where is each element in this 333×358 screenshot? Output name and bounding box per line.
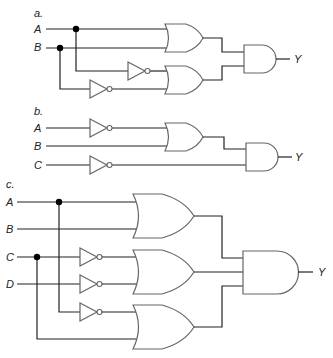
and-gate-icon [246, 143, 278, 171]
not-gate-icon [80, 303, 102, 321]
part-b-label: b. [34, 105, 43, 117]
wire-or1-out [194, 216, 243, 258]
or-gate-icon [165, 123, 203, 151]
wire-b-branch [60, 48, 90, 89]
input-d-label: D [6, 278, 14, 290]
wire-or2-out [203, 66, 244, 80]
junction-dot [34, 254, 40, 260]
input-c-label: C [34, 159, 42, 171]
output-y-label: Y [294, 53, 302, 65]
wire-or-out [203, 137, 246, 149]
not-gate-icon [128, 62, 150, 80]
circuit-c: c. A B C D [5, 178, 326, 349]
junction-dot [57, 45, 63, 51]
output-y-label: Y [295, 151, 303, 163]
not-gate-icon [80, 248, 102, 266]
or-gate-icon [165, 66, 203, 94]
wire-c-branch [37, 257, 137, 339]
part-c-label: c. [6, 178, 15, 190]
part-a-label: a. [34, 7, 43, 19]
input-a-label: A [33, 23, 41, 35]
or-gate-icon [165, 24, 203, 52]
input-a-label: A [5, 196, 13, 208]
junction-dot [56, 199, 62, 205]
and-gate-icon [244, 45, 276, 73]
input-b-label: B [6, 223, 13, 235]
or-gate-icon [133, 250, 194, 294]
input-a-label: A [33, 122, 41, 134]
input-c-label: C [6, 251, 14, 263]
wire-a-branch [76, 29, 128, 71]
not-gate-icon [90, 80, 112, 98]
circuit-diagrams: a. A B Y b. A [0, 0, 333, 358]
and-gate-icon [243, 251, 299, 294]
not-gate-icon [80, 275, 102, 293]
junction-dot [73, 26, 79, 32]
or-gate-icon [133, 305, 194, 349]
input-b-label: B [34, 140, 41, 152]
not-gate-icon [90, 156, 112, 174]
wire-or1-out [203, 38, 244, 52]
circuit-a: a. A B Y [33, 7, 302, 98]
output-y-label: Y [318, 266, 326, 278]
circuit-b: b. A B C Y [33, 105, 303, 174]
or-gate-icon [133, 194, 194, 238]
not-gate-icon [90, 119, 112, 137]
input-b-label: B [34, 41, 41, 53]
wire-or3-out [194, 286, 243, 327]
